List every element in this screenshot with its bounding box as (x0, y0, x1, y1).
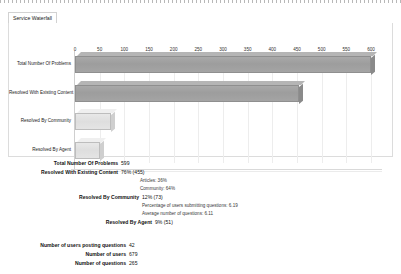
bar-face (75, 113, 111, 130)
footer-row-label: Number of users (86, 250, 126, 259)
summary-footer: Number of users posting questions42Numbe… (0, 241, 401, 268)
category-label: Resolved By Community (9, 118, 71, 124)
summary-row-label: Resolved By Agent (106, 218, 152, 227)
summary-row: Community: 64% (0, 185, 401, 193)
bar-face (75, 56, 371, 73)
summary-row: Articles: 36% (0, 177, 401, 185)
summary-legend: Total Number Of Problems599Resolved With… (0, 159, 401, 227)
footer-row-value: 265 (129, 259, 138, 268)
bar-side (371, 55, 375, 75)
footer-row-label: Number of questions (75, 259, 126, 268)
summary-row-value: 599 (121, 159, 130, 168)
bar-side (100, 140, 104, 160)
summary-row-value: 12% (73) (142, 193, 163, 202)
summary-row: Resolved By Community12% (73) (0, 193, 401, 202)
summary-row: Average number of questions: 6.11 (0, 210, 401, 218)
summary-row-label: Percentage of users submitting questions… (142, 202, 238, 210)
summary-row-value: 9% (51) (155, 218, 173, 227)
bar-2 (75, 85, 299, 102)
summary-row: Total Number Of Problems599 (0, 159, 401, 168)
x-tick-label: 0 (74, 47, 77, 52)
summary-row: Resolved By Agent9% (51) (0, 218, 401, 227)
footer-row: Number of users posting questions42 (0, 241, 401, 250)
summary-row-value: 76% (455) (121, 168, 145, 177)
category-label-wrap: Resolved By Community (9, 118, 71, 124)
category-label: Total Number Of Problems (9, 61, 71, 67)
summary-row-label: Total Number Of Problems (54, 159, 118, 168)
bar-face (75, 142, 100, 159)
summary-row-label: Community: 64% (140, 185, 175, 193)
footer-row-label: Number of users posting questions (40, 241, 126, 250)
bar-4 (75, 142, 100, 159)
footer-row: Number of questions265 (0, 259, 401, 268)
category-label-wrap: Resolved With Existing Content (9, 90, 71, 96)
footer-row: Number of users679 (0, 250, 401, 259)
service-waterfall-panel: Service Waterfall 0501001502002503003504… (0, 3, 401, 265)
bar-3 (75, 113, 111, 130)
summary-row-label: Resolved By Community (79, 193, 139, 202)
summary-row-label: Articles: 36% (140, 177, 167, 185)
bar-side (299, 83, 303, 103)
bar-side (111, 112, 115, 132)
summary-row: Resolved With Existing Content76% (455) (0, 168, 401, 177)
category-label-wrap: Total Number Of Problems (9, 61, 71, 67)
category-label: Resolved By Agent (9, 147, 71, 153)
category-label-wrap: Resolved By Agent (9, 147, 71, 153)
summary-row-label: Resolved With Existing Content (41, 168, 118, 177)
summary-row-label: Average number of questions: 6.11 (142, 210, 213, 218)
chart-frame: 050100150200250300350400450500550600 Tot… (8, 23, 393, 157)
footer-row-value: 679 (129, 250, 138, 259)
bar-face (75, 85, 299, 102)
category-label: Resolved With Existing Content (9, 90, 71, 96)
summary-row: Percentage of users submitting questions… (0, 202, 401, 210)
footer-row-value: 42 (129, 241, 135, 250)
bar-1 (75, 56, 371, 73)
